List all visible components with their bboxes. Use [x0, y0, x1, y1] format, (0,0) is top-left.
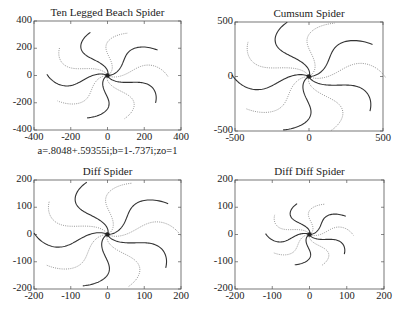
- spider-arm: [295, 235, 311, 265]
- y-tick-label: -400: [13, 123, 32, 134]
- y-tick-label: 200: [217, 173, 233, 184]
- subplot-1: [232, 22, 386, 131]
- spider-arm: [309, 41, 373, 77]
- spider-arm: [310, 235, 345, 255]
- spider-arm: [283, 77, 311, 130]
- y-tick-label: 0: [27, 69, 32, 80]
- y-tick-label: 0: [228, 70, 233, 81]
- x-tick-label: 500: [375, 132, 391, 143]
- spider-arm: [57, 76, 107, 105]
- spider-arm: [275, 22, 310, 76]
- y-tick-label: 500: [217, 15, 233, 26]
- spider-arm: [108, 47, 158, 76]
- x-tick-label: 0: [307, 290, 312, 301]
- y-tick-label: 200: [16, 173, 32, 184]
- x-tick-label: 200: [173, 290, 189, 301]
- spider-arm: [309, 77, 371, 112]
- y-tick-label: 200: [16, 41, 32, 52]
- x-tick-label: 200: [136, 131, 152, 142]
- spider-arm: [34, 233, 107, 247]
- y-tick-label: -200: [13, 96, 32, 107]
- x-tick-label: 0: [105, 131, 110, 142]
- y-tick-label: -100: [214, 255, 233, 266]
- y-tick-label: 0: [27, 228, 32, 239]
- spider-arm: [310, 227, 354, 236]
- subplot-title: Diff Diff Spider: [274, 165, 344, 177]
- spider-arm: [307, 23, 335, 76]
- y-tick-label: -500: [214, 124, 233, 135]
- subplot-0: [34, 21, 181, 130]
- subplot-title: Ten Legged Beach Spider: [51, 6, 165, 18]
- spider-arm: [106, 183, 133, 234]
- center-marker: [105, 73, 109, 77]
- y-tick-label: -100: [13, 255, 32, 266]
- subplot-title: Diff Spider: [83, 165, 133, 177]
- parameter-caption: a=.8048+.59355i;b=1-.737i;zo=1: [37, 145, 177, 156]
- center-marker: [105, 232, 109, 236]
- spider-arm: [83, 235, 110, 286]
- spider-arm: [108, 222, 181, 236]
- spider-arm: [108, 235, 167, 268]
- y-tick-label: -200: [214, 282, 233, 293]
- center-marker: [307, 232, 311, 236]
- x-tick-label: -200: [61, 131, 80, 142]
- x-tick-label: 200: [376, 290, 392, 301]
- spider-arm: [245, 77, 309, 113]
- spider-arm: [232, 75, 309, 90]
- center-marker: [307, 74, 311, 78]
- y-tick-label: 100: [217, 200, 233, 211]
- x-tick-label: 0: [105, 290, 110, 301]
- spider-arm: [266, 233, 310, 242]
- x-tick-label: 0: [306, 132, 311, 143]
- x-tick-label: 100: [339, 290, 355, 301]
- x-tick-label: 400: [173, 131, 189, 142]
- spider-arm: [47, 74, 108, 86]
- y-tick-label: 400: [16, 14, 32, 25]
- spider-arm: [108, 200, 169, 235]
- plot-canvas: [0, 0, 400, 315]
- subplot-title: Cumsum Spider: [273, 7, 344, 19]
- x-tick-label: -100: [61, 290, 80, 301]
- spider-arm: [106, 33, 128, 75]
- spider-arm: [47, 235, 108, 270]
- spider-arm: [309, 63, 386, 78]
- x-tick-label: -100: [263, 290, 282, 301]
- spider-arm: [108, 65, 169, 77]
- subplot-2: [34, 180, 181, 289]
- y-tick-label: 0: [228, 228, 233, 239]
- spider-arm: [310, 214, 346, 234]
- subplot-3: [235, 180, 384, 289]
- x-tick-label: 100: [136, 290, 152, 301]
- spider-arm: [87, 76, 109, 118]
- y-tick-label: 100: [16, 200, 32, 211]
- spider-arm: [308, 204, 324, 234]
- y-tick-label: -200: [13, 282, 32, 293]
